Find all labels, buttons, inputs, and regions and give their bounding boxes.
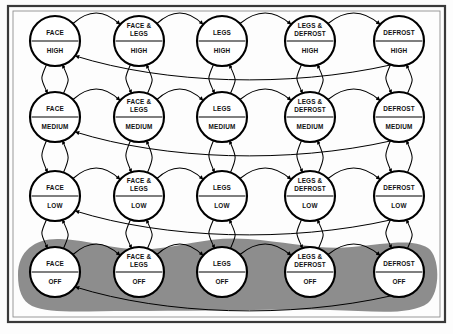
state-node-defrost-off[interactable]: DEFROSTOFF xyxy=(374,247,424,297)
edge-forward-legs-to-legs-defrost-medium xyxy=(240,89,291,101)
state-name-legs-defrost-high-line2: DEFROST xyxy=(294,30,326,37)
edge-up-face-medium-to-high xyxy=(63,65,69,94)
edge-forward-face-legs-to-legs-low xyxy=(157,168,203,180)
state-node-legs-off[interactable]: LEGSOFF xyxy=(197,247,247,297)
edge-down-legs-medium-to-low xyxy=(209,140,215,172)
state-name-legs-off: LEGS xyxy=(213,260,232,267)
state-name-face-legs-medium-line1: FACE & xyxy=(127,98,152,105)
state-name-legs-defrost-medium-line1: LEGS & xyxy=(298,98,323,105)
edge-up-defrost-low-to-medium xyxy=(407,141,413,173)
state-name-legs-defrost-low-line2: DEFROST xyxy=(294,185,326,192)
state-name-face-low: FACE xyxy=(46,184,64,191)
state-node-legs-defrost-medium[interactable]: LEGS &DEFROSTMEDIUM xyxy=(285,92,335,142)
state-mode-defrost-medium: MEDIUM xyxy=(386,123,413,130)
state-mode-legs-low: LOW xyxy=(214,202,230,209)
state-mode-face-low: LOW xyxy=(47,202,63,209)
state-mode-face-off: OFF xyxy=(48,278,61,285)
state-mode-face-high: HIGH xyxy=(47,47,64,54)
state-node-face-legs-low[interactable]: FACE &LEGSLOW xyxy=(114,171,164,221)
state-mode-face-legs-off: OFF xyxy=(132,278,145,285)
state-diagram-canvas: FACEHIGHFACE &LEGSHIGHLEGSHIGHLEGS &DEFR… xyxy=(0,0,453,334)
state-node-legs-defrost-off[interactable]: LEGS &DEFROSTOFF xyxy=(285,247,335,297)
state-node-legs-low[interactable]: LEGSLOW xyxy=(197,171,247,221)
state-name-face-high: FACE xyxy=(46,29,64,36)
state-node-defrost-high[interactable]: DEFROSTHIGH xyxy=(374,16,424,66)
state-mode-defrost-off: OFF xyxy=(392,278,405,285)
edge-forward-face-to-face-legs-medium xyxy=(73,89,120,101)
state-name-legs-medium: LEGS xyxy=(213,105,232,112)
state-node-defrost-low[interactable]: DEFROSTLOW xyxy=(374,171,424,221)
state-node-face-legs-off[interactable]: FACE &LEGSOFF xyxy=(114,247,164,297)
state-name-defrost-off: DEFROST xyxy=(383,260,415,267)
state-node-legs-high[interactable]: LEGSHIGH xyxy=(197,16,247,66)
state-node-face-medium[interactable]: FACEMEDIUM xyxy=(30,92,80,142)
state-node-legs-defrost-low[interactable]: LEGS &DEFROSTLOW xyxy=(285,171,335,221)
edge-up-legs-defrost-off-to-low xyxy=(318,220,324,249)
edge-up-face-legs-low-to-medium xyxy=(147,141,153,173)
edge-forward-face-legs-to-legs-high xyxy=(157,13,203,25)
state-node-face-legs-high[interactable]: FACE &LEGSHIGH xyxy=(114,16,164,66)
state-name-defrost-low: DEFROST xyxy=(383,184,415,191)
state-mode-defrost-low: LOW xyxy=(391,202,407,209)
state-name-face-off: FACE xyxy=(46,260,64,267)
state-name-face-legs-high-line1: FACE & xyxy=(127,22,152,29)
edge-up-legs-low-to-medium xyxy=(230,141,236,173)
state-name-face-legs-high-line2: LEGS xyxy=(130,30,149,37)
edge-forward-face-to-face-legs-high xyxy=(73,13,120,25)
state-name-face-legs-medium-line2: LEGS xyxy=(130,106,149,113)
edge-forward-legs-defrost-to-defrost-low xyxy=(328,168,380,180)
edge-forward-face-legs-to-legs-medium xyxy=(157,89,203,101)
edge-down-face-medium-to-low xyxy=(42,140,48,172)
state-mode-face-legs-high: HIGH xyxy=(131,47,148,54)
state-diagram-root: FACEHIGHFACE &LEGSHIGHLEGSHIGHLEGS &DEFR… xyxy=(0,0,453,334)
state-node-face-high[interactable]: FACEHIGH xyxy=(30,16,80,66)
state-mode-legs-defrost-medium: MEDIUM xyxy=(297,123,324,130)
state-mode-legs-off: OFF xyxy=(215,278,228,285)
state-mode-face-legs-medium: MEDIUM xyxy=(126,123,153,130)
state-name-defrost-medium: DEFROST xyxy=(383,105,415,112)
state-mode-face-legs-low: LOW xyxy=(131,202,147,209)
state-node-face-legs-medium[interactable]: FACE &LEGSMEDIUM xyxy=(114,92,164,142)
edge-down-defrost-medium-to-low xyxy=(386,140,392,172)
edge-forward-legs-to-legs-defrost-low xyxy=(240,168,291,180)
edge-down-face-high-to-medium xyxy=(42,64,48,93)
state-name-face-medium: FACE xyxy=(46,105,64,112)
state-node-face-off[interactable]: FACEOFF xyxy=(30,247,80,297)
state-mode-legs-medium: MEDIUM xyxy=(209,123,236,130)
state-name-face-legs-low-line1: FACE & xyxy=(127,177,152,184)
state-mode-defrost-high: HIGH xyxy=(391,47,408,54)
state-node-defrost-medium[interactable]: DEFROSTMEDIUM xyxy=(374,92,424,142)
state-name-legs-defrost-high-line1: LEGS & xyxy=(298,22,323,29)
edge-forward-legs-to-legs-defrost-high xyxy=(240,13,291,25)
state-name-legs-defrost-off-line1: LEGS & xyxy=(298,253,323,260)
state-node-face-low[interactable]: FACELOW xyxy=(30,171,80,221)
state-node-legs-medium[interactable]: LEGSMEDIUM xyxy=(197,92,247,142)
edge-up-face-legs-medium-to-high xyxy=(147,65,153,94)
state-name-legs-defrost-low-line1: LEGS & xyxy=(298,177,323,184)
edge-up-defrost-medium-to-high xyxy=(407,65,413,94)
state-name-legs-defrost-off-line2: DEFROST xyxy=(294,261,326,268)
edge-down-legs-defrost-medium-to-low xyxy=(297,140,303,172)
state-mode-legs-defrost-off: OFF xyxy=(303,278,316,285)
state-name-face-legs-off-line1: FACE & xyxy=(127,253,152,260)
state-mode-legs-high: HIGH xyxy=(214,47,231,54)
edge-up-face-legs-off-to-low xyxy=(147,220,153,249)
state-mode-legs-defrost-high: HIGH xyxy=(302,47,319,54)
edge-forward-face-to-face-legs-low xyxy=(73,168,120,180)
edge-down-defrost-high-to-medium xyxy=(386,64,392,93)
state-name-legs-defrost-medium-line2: DEFROST xyxy=(294,106,326,113)
edge-up-face-low-to-medium xyxy=(63,141,69,173)
edge-forward-legs-defrost-to-defrost-medium xyxy=(328,89,380,101)
state-node-legs-defrost-high[interactable]: LEGS &DEFROSTHIGH xyxy=(285,16,335,66)
state-name-defrost-high: DEFROST xyxy=(383,29,415,36)
state-mode-legs-defrost-low: LOW xyxy=(302,202,318,209)
edge-up-legs-defrost-low-to-medium xyxy=(318,141,324,173)
edge-up-legs-defrost-medium-to-high xyxy=(318,65,324,94)
state-name-face-legs-low-line2: LEGS xyxy=(130,185,149,192)
state-name-legs-high: LEGS xyxy=(213,29,232,36)
edge-forward-legs-defrost-to-defrost-high xyxy=(328,13,380,25)
state-mode-face-medium: MEDIUM xyxy=(42,123,69,130)
state-name-legs-low: LEGS xyxy=(213,184,232,191)
state-name-face-legs-off-line2: LEGS xyxy=(130,261,149,268)
